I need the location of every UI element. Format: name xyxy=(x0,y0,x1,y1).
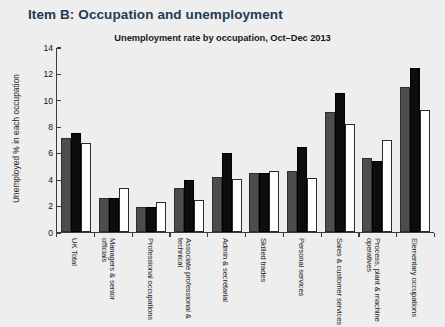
bar xyxy=(61,138,71,232)
bar xyxy=(194,200,204,232)
bar-group xyxy=(95,48,133,232)
x-axis-label: Admin & secretarial xyxy=(221,238,229,326)
bar-group xyxy=(396,48,434,232)
x-axis-label: Sales & customer services xyxy=(334,238,342,326)
page-root: Item B: Occupation and unemployment Unem… xyxy=(0,0,445,327)
bar xyxy=(249,173,259,232)
bar xyxy=(382,140,392,233)
bar-group xyxy=(57,48,95,232)
bar-group xyxy=(208,48,246,232)
y-tick-label: 12 xyxy=(43,70,57,79)
bar xyxy=(297,147,307,232)
x-axis-label: Elementary occupations xyxy=(410,238,418,326)
y-tick-label: 14 xyxy=(43,43,57,52)
x-axis-label: Personal services xyxy=(296,238,304,326)
page-title: Item B: Occupation and unemployment xyxy=(28,7,283,22)
bar xyxy=(325,112,335,232)
bar xyxy=(362,158,372,232)
bar xyxy=(287,171,297,232)
y-tick-label: 6 xyxy=(48,149,57,158)
x-tick-mark xyxy=(358,233,359,237)
x-axis-ticks xyxy=(56,233,434,237)
x-tick-mark xyxy=(56,233,57,237)
y-tick-label: 8 xyxy=(48,122,57,131)
y-tick-label: 2 xyxy=(48,202,57,211)
bar xyxy=(71,133,81,232)
x-tick-mark xyxy=(434,233,435,237)
bar-group xyxy=(132,48,170,232)
x-tick-mark xyxy=(169,233,170,237)
bar xyxy=(232,179,242,232)
x-axis-label: Skilled trades xyxy=(259,238,267,326)
bar-group xyxy=(170,48,208,232)
x-tick-mark xyxy=(396,233,397,237)
y-axis-label: Unemployed % in each occupation xyxy=(11,46,25,231)
bar xyxy=(81,143,91,232)
x-axis-label: Process, plant & machine operatives xyxy=(364,238,381,326)
y-tick-label: 4 xyxy=(48,175,57,184)
bar xyxy=(335,93,345,232)
bar xyxy=(410,68,420,232)
bar xyxy=(99,198,109,232)
bar-group xyxy=(359,48,397,232)
x-tick-mark xyxy=(94,233,95,237)
bar xyxy=(420,110,430,232)
bar xyxy=(136,207,146,232)
bar xyxy=(156,202,166,232)
x-tick-mark xyxy=(245,233,246,237)
bar-groups xyxy=(57,48,434,232)
x-axis-label: UK Total xyxy=(70,238,78,326)
x-axis-label: Managers & senior officials xyxy=(99,238,116,326)
bar xyxy=(212,177,222,233)
bar xyxy=(146,207,156,232)
bar xyxy=(345,124,355,232)
x-axis-label: Associate professional & technical xyxy=(175,238,192,326)
bar xyxy=(307,178,317,232)
x-axis-labels: UK TotalManagers & senior officialsProfe… xyxy=(56,238,434,327)
bar xyxy=(372,161,382,232)
y-tick-label: 10 xyxy=(43,96,57,105)
x-tick-mark xyxy=(321,233,322,237)
x-axis-label: Professional occupations xyxy=(145,238,153,326)
chart-title: Unemployment rate by occupation, Oct–Dec… xyxy=(0,33,445,43)
x-tick-mark xyxy=(283,233,284,237)
bar xyxy=(400,87,410,232)
bar xyxy=(119,188,129,232)
chart-plot-area: Unemployed % in each occupation 02468101… xyxy=(56,48,434,233)
bar-group xyxy=(321,48,359,232)
bar-group xyxy=(283,48,321,232)
bar xyxy=(174,188,184,232)
bar xyxy=(184,180,194,232)
x-tick-mark xyxy=(207,233,208,237)
x-tick-mark xyxy=(132,233,133,237)
bar-group xyxy=(246,48,284,232)
bar xyxy=(109,198,119,232)
bar xyxy=(222,153,232,232)
bar xyxy=(259,173,269,232)
bar xyxy=(269,171,279,232)
